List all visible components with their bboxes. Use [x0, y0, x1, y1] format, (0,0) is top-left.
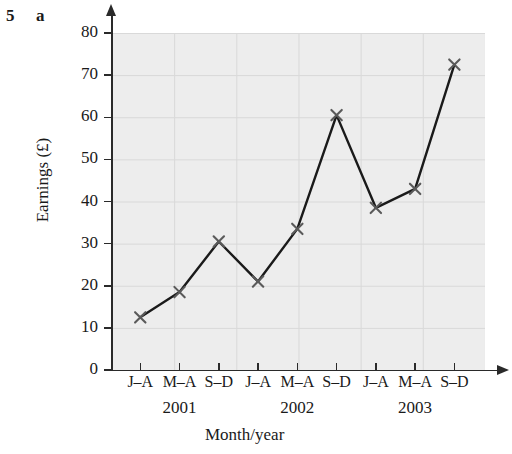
x-axis-tick — [218, 363, 220, 371]
y-axis-tick-label: 40 — [81, 191, 98, 211]
y-axis-tick — [104, 327, 112, 329]
x-axis-tick — [375, 363, 377, 371]
y-axis-tick-label: 10 — [81, 317, 98, 337]
y-axis-tick — [104, 32, 112, 34]
y-axis-line — [111, 14, 113, 371]
x-axis-tick — [454, 363, 456, 371]
x-axis-year-label: 2001 — [135, 398, 225, 418]
y-axis-tick — [104, 369, 112, 371]
x-axis-tick — [336, 363, 338, 371]
y-axis-tick — [104, 159, 112, 161]
y-axis-tick-label: 30 — [81, 233, 98, 253]
x-axis-line — [111, 370, 501, 372]
y-axis-tick-label: 0 — [90, 359, 99, 379]
y-axis-arrow-icon — [106, 4, 116, 16]
x-axis-tick — [297, 363, 299, 371]
y-axis-tick — [104, 74, 112, 76]
line-chart: 01020304050607080 J–AM–AS–DJ–AM–AS–DJ–AM… — [0, 0, 512, 454]
y-axis-tick — [104, 117, 112, 119]
y-axis-tick-label: 70 — [81, 64, 98, 84]
x-axis-year-label: 2002 — [252, 398, 342, 418]
y-axis-title: Earnings (£) — [33, 100, 53, 260]
grid-lines — [112, 33, 485, 370]
y-axis-tick — [104, 285, 112, 287]
y-axis-tick-label: 60 — [81, 106, 98, 126]
x-axis-title: Month/year — [205, 425, 284, 445]
x-axis-tick — [257, 363, 259, 371]
y-axis-tick — [104, 201, 112, 203]
x-axis-tick — [179, 363, 181, 371]
plot-area — [112, 33, 485, 370]
x-axis-tick — [414, 363, 416, 371]
x-axis-tick-label: S–D — [423, 373, 485, 391]
x-axis-year-label: 2003 — [370, 398, 460, 418]
y-axis-tick-label: 20 — [81, 275, 98, 295]
y-axis-tick-label: 50 — [81, 148, 98, 168]
y-axis-tick-label: 80 — [81, 22, 98, 42]
x-axis-tick — [140, 363, 142, 371]
x-axis-arrow-icon — [497, 365, 509, 375]
y-axis-tick — [104, 243, 112, 245]
